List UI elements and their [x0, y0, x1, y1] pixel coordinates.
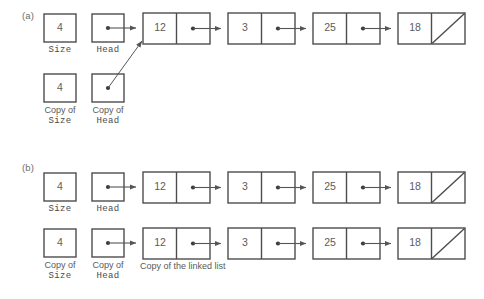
- panel-b-copy-node-4-value: 18: [398, 236, 432, 248]
- panel-a-node-4-value: 18: [398, 21, 432, 33]
- panel-b-copy-node-2-value: 3: [228, 236, 262, 248]
- panel-b-size-caption: Size: [34, 204, 86, 215]
- panel-a-node-1-value: 12: [143, 21, 177, 33]
- panel-a-size-caption: Size: [34, 45, 86, 56]
- panel-b-head-caption: Head: [82, 204, 134, 215]
- panel-b-copy-of-size-value: 4: [44, 236, 76, 248]
- panel-a-size-caption-text: Size: [34, 45, 86, 56]
- panel-b-size-caption-text: Size: [34, 204, 86, 215]
- panel-a-head-caption: Head: [82, 45, 134, 56]
- panel-b-copy-of-head-caption: Copy of Head: [80, 260, 136, 282]
- panel-a-head-caption-text: Head: [82, 45, 134, 56]
- panel-b-node-1-value: 12: [143, 180, 177, 192]
- panel-a-head-box: [92, 14, 136, 42]
- panel-b-copy-of-head-box: [92, 229, 136, 257]
- panel-b-head-caption-text: Head: [82, 204, 134, 215]
- panel-b-node-3-value: 25: [313, 180, 347, 192]
- panel-a-copy-of-size-caption-line1: Copy of: [44, 105, 75, 115]
- panel-a-node-3-value: 25: [313, 21, 347, 33]
- panel-b-label: (b): [22, 162, 34, 173]
- panel-a-size-value: 4: [44, 21, 76, 33]
- panel-a-node-2-value: 3: [228, 21, 262, 33]
- panel-b-node-2-value: 3: [228, 180, 262, 192]
- panel-b-node-4-value: 18: [398, 180, 432, 192]
- panel-b-size-value: 4: [44, 180, 76, 192]
- panel-a-copy-of-head-caption-line1: Copy of: [92, 105, 123, 115]
- copy-of-linked-list-caption: Copy of the linked list: [140, 261, 320, 272]
- panel-b-copy-of-head-caption-line1: Copy of: [92, 260, 123, 270]
- panel-a-label: (a): [22, 10, 34, 21]
- panel-a-copy-of-head-caption: Copy of Head: [80, 105, 136, 127]
- panel-b-copy-node-1-value: 12: [143, 236, 177, 248]
- panel-a-copy-of-head-caption-line2: Head: [80, 116, 136, 127]
- panel-b-head-box: [92, 173, 136, 201]
- panel-b-copy-of-size-caption-line1: Copy of: [44, 260, 75, 270]
- panel-b-copy-of-head-caption-line2: Head: [80, 271, 136, 282]
- panel-a-copy-of-size-value: 4: [44, 81, 76, 93]
- figure-canvas: (a) 4 Size Head 4 Copy of Size Copy of H…: [0, 0, 484, 299]
- panel-b-copy-node-3-value: 25: [313, 236, 347, 248]
